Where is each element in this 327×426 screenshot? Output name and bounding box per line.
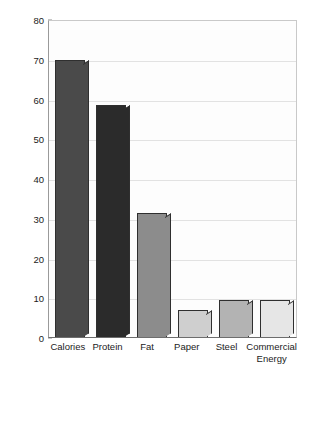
bar-slot bbox=[173, 21, 214, 337]
bar-chart: Per capita consumption in poor nations, … bbox=[0, 0, 327, 426]
bar[interactable] bbox=[137, 213, 167, 337]
bar-side-shade bbox=[165, 213, 171, 337]
bar[interactable] bbox=[55, 60, 85, 337]
y-axis-tick-labels: 01020304050607080 bbox=[22, 20, 48, 338]
y-axis-title: Per capita consumption in poor nations, … bbox=[0, 0, 20, 426]
bar-side-shade bbox=[83, 60, 89, 337]
x-tick-label: Steel bbox=[207, 341, 247, 381]
bar[interactable] bbox=[96, 105, 126, 337]
x-tick-label: Protein bbox=[88, 341, 128, 381]
bar-slot bbox=[90, 21, 131, 337]
x-axis-tick-labels: CaloriesProteinFatPaperSteelCommercialEn… bbox=[48, 341, 297, 381]
bar[interactable] bbox=[178, 310, 208, 337]
y-tick-label: 70 bbox=[33, 54, 44, 65]
y-tick-label: 20 bbox=[33, 253, 44, 264]
bar-side-shade bbox=[247, 300, 253, 337]
y-tick-label: 80 bbox=[33, 15, 44, 26]
bar-slot bbox=[214, 21, 255, 337]
bar-slot bbox=[49, 21, 90, 337]
y-tick-label: 10 bbox=[33, 293, 44, 304]
y-tick-label: 40 bbox=[33, 174, 44, 185]
y-tick-label: 0 bbox=[39, 333, 44, 344]
bar[interactable] bbox=[219, 300, 249, 337]
bar-slot bbox=[131, 21, 172, 337]
x-tick-label: Paper bbox=[167, 341, 207, 381]
y-tick-label: 60 bbox=[33, 94, 44, 105]
bar-side-shade bbox=[124, 106, 130, 337]
bar[interactable] bbox=[260, 300, 290, 337]
x-tick-label: Calories bbox=[48, 341, 88, 381]
bars-group bbox=[49, 21, 296, 337]
x-tick-label: Fat bbox=[127, 341, 167, 381]
bar-side-shade bbox=[288, 301, 294, 337]
y-tick-label: 50 bbox=[33, 134, 44, 145]
y-tick-label: 30 bbox=[33, 213, 44, 224]
x-tick-label: CommercialEnergy bbox=[246, 341, 297, 381]
plot-area bbox=[48, 20, 297, 338]
bar-slot bbox=[255, 21, 296, 337]
bar-side-shade bbox=[206, 311, 212, 337]
